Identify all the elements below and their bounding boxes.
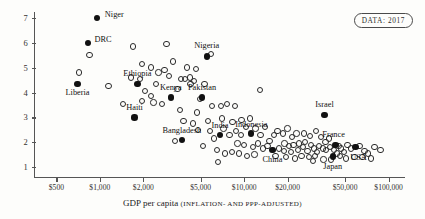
data-point-labeled [74, 81, 80, 87]
data-point [226, 132, 232, 138]
data-point [163, 41, 169, 47]
data-point [224, 101, 230, 107]
data-point [234, 140, 240, 146]
data-point [170, 58, 176, 64]
data-point-label: India [211, 121, 228, 130]
data-point-label: Niger [105, 10, 124, 19]
data-point-label: Israel [315, 100, 333, 109]
x-tick-label: $1,000 [89, 183, 110, 192]
data-point-labeled [269, 147, 275, 153]
data-point [153, 81, 159, 87]
x-axis-title-main: GDP per capita [123, 198, 178, 208]
x-tick [56, 178, 57, 182]
data-point [266, 138, 272, 144]
data-point [307, 133, 313, 139]
data-point-labeled [131, 114, 137, 120]
x-tick [100, 178, 101, 182]
data-point [257, 132, 263, 138]
x-tick [389, 178, 390, 182]
data-point [257, 87, 263, 93]
data-point [292, 155, 298, 161]
x-tick-label: $5,000 [190, 183, 211, 192]
data-point [236, 150, 242, 156]
x-tick-label: $100,000 [374, 183, 402, 192]
data-point-label: USA [350, 153, 367, 162]
data-point [238, 132, 244, 138]
x-axis-line [34, 177, 405, 178]
data-point [293, 130, 299, 136]
data-point [284, 125, 290, 131]
x-tick [244, 178, 245, 182]
x-tick-label: $20,000 [275, 183, 300, 192]
y-tick-label: 6 [0, 38, 28, 48]
data-point-label: China [263, 155, 283, 164]
x-tick-label: $50,000 [333, 183, 358, 192]
data-point-labeled [330, 153, 336, 159]
data-point-labeled [199, 94, 205, 100]
y-tick-label: 1 [0, 162, 28, 172]
data-point-label: Kenya [160, 83, 182, 92]
x-tick [201, 178, 202, 182]
data-point [180, 118, 186, 124]
data-point-label: Japan [323, 162, 342, 171]
y-tick-label: 4 [0, 88, 28, 98]
data-point [139, 61, 145, 67]
data-point-labeled [179, 137, 185, 143]
data-point-labeled [134, 81, 140, 87]
data-point-label: Bangladesh [162, 126, 201, 135]
data-point [377, 147, 383, 153]
data-point-label: Indonesia [235, 120, 267, 129]
data-point [368, 155, 374, 161]
x-tick-label: $10,000 [232, 183, 257, 192]
data-point-label: Liberia [66, 88, 90, 97]
data-point-labeled [217, 132, 223, 138]
data-point-labeled [352, 144, 358, 150]
y-tick-label: 5 [0, 63, 28, 73]
data-point [161, 67, 167, 73]
data-point-labeled [168, 94, 174, 100]
data-point-label: France [322, 130, 345, 139]
data-point [184, 64, 190, 70]
data-point [251, 151, 257, 157]
data-point [150, 99, 156, 105]
x-tick-label: $2,000 [133, 183, 154, 192]
data-point [130, 43, 136, 49]
data-point-label: Haiti [126, 103, 143, 112]
data-point [194, 109, 200, 115]
x-tick [143, 178, 144, 182]
y-tick-label: 7 [0, 13, 28, 23]
y-tick-label: 2 [0, 137, 28, 147]
x-axis-title: GDP per capita (INFLATION- AND PPP-ADJUS… [0, 198, 425, 208]
data-point-labeled [321, 112, 327, 118]
data-point-label: DRC [95, 35, 112, 44]
data-point-labeled [204, 53, 210, 59]
data-point [343, 155, 349, 161]
data-point-labeled [332, 142, 338, 148]
x-tick-label: $500 [49, 183, 64, 192]
data-point [172, 138, 178, 144]
scatter-chart: DATA: 2017 1234567 $500$1,000$2,000$5,00… [0, 0, 425, 219]
x-axis-title-sub: (INFLATION- AND PPP-ADJUSTED) [181, 200, 302, 208]
data-point-label: Pakistan [188, 83, 216, 92]
y-tick-label: 3 [0, 112, 28, 122]
data-point-label: Ethiopia [123, 69, 151, 78]
x-tick [345, 178, 346, 182]
data-point [298, 153, 304, 159]
x-tick [288, 178, 289, 182]
data-point-label: Nigeria [194, 41, 219, 50]
data-point [222, 150, 228, 156]
